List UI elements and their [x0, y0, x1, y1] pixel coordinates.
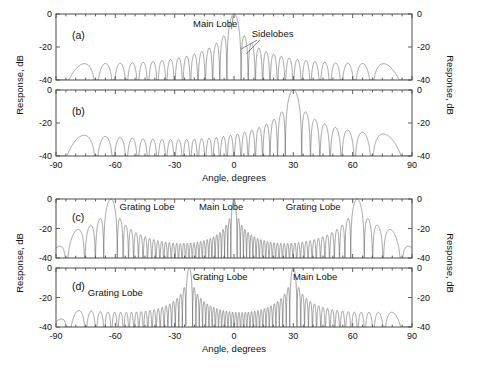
- panel-a-tag: (a): [72, 29, 85, 41]
- panel-c-annot-main-lobe: Main Lobe: [199, 201, 243, 212]
- panel-b-xtick-label: 90: [407, 160, 417, 170]
- panel-b-plot-frame: [56, 90, 412, 156]
- panel-a-ytick-label-right: 0: [417, 9, 422, 19]
- panel-d-xtick-label: -60: [109, 331, 122, 341]
- panel-b-ytick-label-right: -40: [417, 151, 430, 161]
- panel-c-annot-grating-lobe-right: Grating Lobe: [286, 201, 341, 212]
- panel-d-xtick-label: -90: [49, 331, 62, 341]
- panel-d-annot-grating-lobe-center: Grating Lobe: [193, 271, 248, 282]
- panel-b-ytick-label-left: 0: [47, 85, 52, 95]
- upper-y-axis-label-left: Response, dB: [14, 55, 25, 115]
- lower-y-axis-label-left: Response, dB: [14, 233, 25, 293]
- beam-pattern-figure: 00-20-20-40-40(a)00-20-20-40-40-90-60-30…: [0, 0, 486, 383]
- panel-d-x-axis-label: Angle, degrees: [202, 343, 266, 354]
- panel-d-ytick-label-right: 0: [417, 263, 422, 273]
- panel-d-ytick-label-right: -40: [417, 322, 430, 332]
- panel-b-xtick-label: -30: [168, 160, 181, 170]
- panel-b-tag: (b): [72, 105, 85, 117]
- upper-y-axis-label-right: Response, dB: [445, 55, 456, 115]
- panel-d-annot-main-lobe: Main Lobe: [293, 271, 337, 282]
- panel-b-xtick-label: 30: [288, 160, 298, 170]
- panel-c-ytick-label-left: 0: [47, 194, 52, 204]
- panel-d-xtick-label: -30: [168, 331, 181, 341]
- panel-d-annot-grating-lobe-left: Grating Lobe: [88, 287, 143, 298]
- panel-b-x-axis-label: Angle, degrees: [202, 172, 266, 183]
- panel-c-tag: (c): [72, 211, 84, 223]
- panel-a-ytick-label-left: -20: [39, 42, 52, 52]
- panel-a-annot-main-lobe: Main Lobe: [193, 18, 237, 29]
- panel-a-ytick-label-right: -20: [417, 42, 430, 52]
- panel-b-ytick-label-left: -20: [39, 118, 52, 128]
- panel-d-xtick-label: 0: [231, 331, 236, 341]
- panel-c-ytick-label-right: -20: [417, 224, 430, 234]
- panel-a-ytick-label-right: -40: [417, 75, 430, 85]
- panel-b-ytick-label-right: -20: [417, 118, 430, 128]
- panel-c-ytick-label-left: -20: [39, 224, 52, 234]
- panel-b-ytick-label-right: 0: [417, 85, 422, 95]
- panel-a-ytick-label-left: -40: [39, 75, 52, 85]
- panel-b-xtick-label: -90: [49, 160, 62, 170]
- lower-y-axis-label-right: Response, dB: [445, 233, 456, 293]
- panel-d-ytick-label-right: -20: [417, 293, 430, 303]
- panel-a-annot-sidelobes: Sidelobes: [252, 28, 294, 39]
- panel-a-ytick-label-left: 0: [47, 9, 52, 19]
- panel-b-response-curve: [56, 90, 412, 156]
- panel-c-annot-grating-lobe-left: Grating Lobe: [120, 201, 175, 212]
- panel-d-tag: (d): [72, 280, 85, 292]
- panel-d-xtick-label: 90: [407, 331, 417, 341]
- panel-c-ytick-label-left: -40: [39, 253, 52, 263]
- panel-d-xtick-label: 60: [348, 331, 358, 341]
- figure-canvas: 00-20-20-40-40(a)00-20-20-40-40-90-60-30…: [0, 0, 486, 383]
- panel-d-ytick-label-left: 0: [47, 263, 52, 273]
- panel-d-xtick-label: 30: [288, 331, 298, 341]
- panel-c-ytick-label-right: -40: [417, 253, 430, 263]
- panel-b-xtick-label: 60: [348, 160, 358, 170]
- panel-c-ytick-label-right: 0: [417, 194, 422, 204]
- panel-b-xtick-label: 0: [231, 160, 236, 170]
- panel-d-ytick-label-left: -20: [39, 293, 52, 303]
- panel-b-xtick-label: -60: [109, 160, 122, 170]
